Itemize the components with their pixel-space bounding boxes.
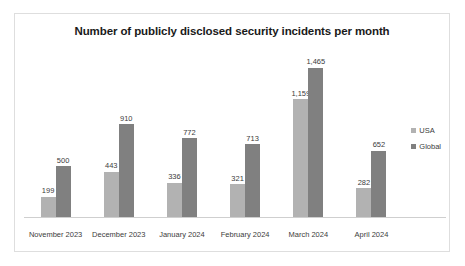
bar-value-label: 1,465 — [306, 58, 325, 66]
bar-rect: 500 — [56, 166, 71, 217]
bar-global[interactable]: 1,465 — [308, 44, 323, 217]
category-label: January 2024 — [150, 230, 213, 239]
bar-value-label: 910 — [120, 115, 133, 123]
bar-usa[interactable]: 1,159 — [293, 44, 308, 217]
bar-rect: 443 — [104, 172, 119, 217]
legend-label: Global — [419, 142, 441, 151]
legend-swatch-icon — [411, 144, 416, 149]
bar-value-label: 336 — [168, 173, 181, 181]
bar-usa[interactable]: 443 — [104, 44, 119, 217]
bar-pair: 443910 — [104, 44, 134, 217]
category-label: April 2024 — [340, 230, 403, 239]
bar-rect: 336 — [167, 183, 182, 217]
x-axis-labels: November 2023December 2023January 2024Fe… — [24, 230, 403, 239]
category-label: November 2023 — [24, 230, 87, 239]
bar-value-label: 772 — [183, 129, 196, 137]
bar-value-label: 652 — [373, 141, 386, 149]
bar-rect: 910 — [119, 124, 134, 217]
legend-label: USA — [419, 126, 434, 135]
legend-item-global[interactable]: Global — [411, 142, 441, 151]
bar-rect: 772 — [182, 138, 197, 217]
bar-group: 199500 — [24, 44, 87, 217]
bar-group: 443910 — [87, 44, 150, 217]
bar-rect: 713 — [245, 144, 260, 217]
bar-value-label: 443 — [105, 162, 118, 170]
bar-group: 1,1591,465 — [277, 44, 340, 217]
bar-group: 321713 — [214, 44, 277, 217]
bar-group: 336772 — [150, 44, 213, 217]
bar-value-label: 282 — [358, 179, 371, 187]
bar-rect: 652 — [371, 151, 386, 217]
bar-value-label: 713 — [246, 135, 259, 143]
bar-pair: 321713 — [230, 44, 260, 217]
bar-groups: 1995004439103367723217131,1591,465282652 — [24, 44, 403, 217]
legend-item-usa[interactable]: USA — [411, 126, 441, 135]
bar-rect: 321 — [230, 184, 245, 217]
bar-value-label: 321 — [231, 175, 244, 183]
bar-rect: 1,465 — [308, 68, 323, 217]
bar-global[interactable]: 772 — [182, 44, 197, 217]
bar-value-label: 199 — [42, 187, 55, 195]
bar-usa[interactable]: 199 — [41, 44, 56, 217]
legend-swatch-icon — [411, 128, 416, 133]
bar-global[interactable]: 652 — [371, 44, 386, 217]
bar-rect: 199 — [41, 197, 56, 217]
chart-legend: USAGlobal — [411, 126, 441, 151]
bar-rect: 282 — [356, 188, 371, 217]
category-label: December 2023 — [87, 230, 150, 239]
category-label: March 2024 — [277, 230, 340, 239]
x-axis-line — [24, 217, 446, 218]
bar-pair: 336772 — [167, 44, 197, 217]
bar-pair: 282652 — [356, 44, 386, 217]
bar-usa[interactable]: 321 — [230, 44, 245, 217]
bar-rect: 1,159 — [293, 99, 308, 217]
bar-global[interactable]: 500 — [56, 44, 71, 217]
bar-value-label: 500 — [57, 157, 70, 165]
chart-container: Number of publicly disclosed security in… — [14, 13, 450, 252]
bar-usa[interactable]: 336 — [167, 44, 182, 217]
bar-global[interactable]: 713 — [245, 44, 260, 217]
chart-title: Number of publicly disclosed security in… — [15, 25, 449, 37]
bar-pair: 1,1591,465 — [293, 44, 323, 217]
bar-usa[interactable]: 282 — [356, 44, 371, 217]
bar-pair: 199500 — [41, 44, 71, 217]
category-label: February 2024 — [214, 230, 277, 239]
bar-group: 282652 — [340, 44, 403, 217]
bar-global[interactable]: 910 — [119, 44, 134, 217]
